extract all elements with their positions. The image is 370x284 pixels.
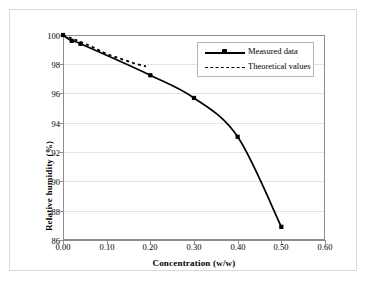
- data-point-marker: [70, 39, 74, 43]
- data-series-layer: [0, 0, 370, 284]
- legend-item-measured-data: Measured data: [198, 45, 313, 60]
- theoretical-values-line: [63, 35, 146, 66]
- data-point-marker: [192, 96, 196, 100]
- legend-item-theoretical-values: Theoretical values: [198, 60, 313, 75]
- chart-figure: Relative humidity (%) 100 98 96 94 92 90…: [0, 0, 370, 284]
- data-point-marker: [148, 73, 152, 77]
- legend-square-marker-icon: [222, 49, 227, 54]
- legend-dashed-line-swatch: [205, 67, 245, 68]
- data-point-marker: [279, 225, 283, 229]
- legend-label: Measured data: [248, 46, 298, 57]
- chart-legend: Measured data Theoretical values: [197, 42, 314, 77]
- data-point-marker: [236, 135, 240, 139]
- data-point-marker: [61, 33, 65, 37]
- legend-label: Theoretical values: [248, 61, 311, 72]
- data-point-marker: [78, 42, 82, 46]
